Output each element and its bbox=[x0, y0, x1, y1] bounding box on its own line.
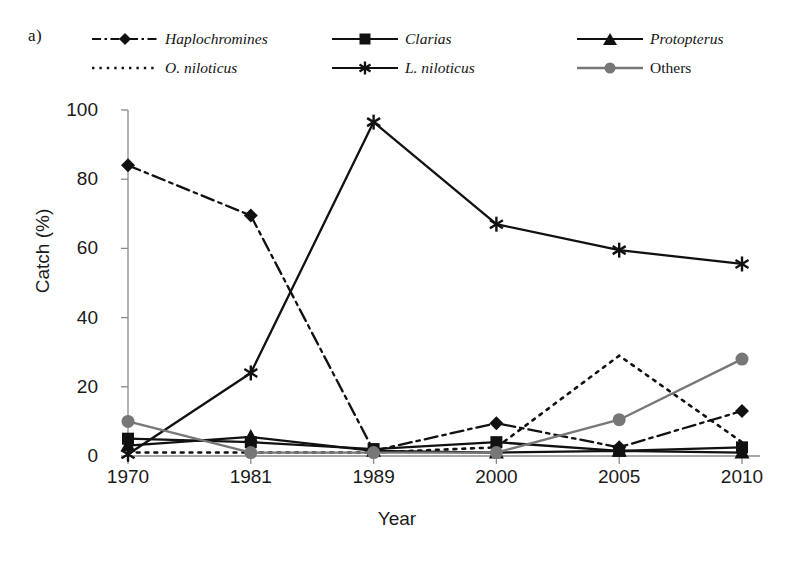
x-tick-label: 2000 bbox=[451, 466, 541, 488]
x-tick-label: 1989 bbox=[329, 466, 419, 488]
series-others bbox=[122, 353, 749, 459]
y-tick-label: 0 bbox=[52, 445, 98, 467]
chart-axes bbox=[121, 110, 760, 464]
y-tick-label: 100 bbox=[52, 99, 98, 121]
x-tick-label: 1981 bbox=[206, 466, 296, 488]
x-tick-label: 2005 bbox=[574, 466, 664, 488]
y-tick-label: 20 bbox=[52, 376, 98, 398]
series-l-niloticus bbox=[122, 115, 749, 462]
x-tick-label: 2010 bbox=[697, 466, 787, 488]
y-tick-label: 60 bbox=[52, 237, 98, 259]
series-haplochromines bbox=[121, 158, 749, 457]
y-tick-label: 40 bbox=[52, 307, 98, 329]
x-axis-title: Year bbox=[0, 508, 794, 530]
y-tick-label: 80 bbox=[52, 168, 98, 190]
y-axis-title: Catch (%) bbox=[32, 166, 54, 336]
figure-panel: a) Haplochromines Clarias bbox=[0, 0, 794, 565]
x-tick-label: 1970 bbox=[83, 466, 173, 488]
